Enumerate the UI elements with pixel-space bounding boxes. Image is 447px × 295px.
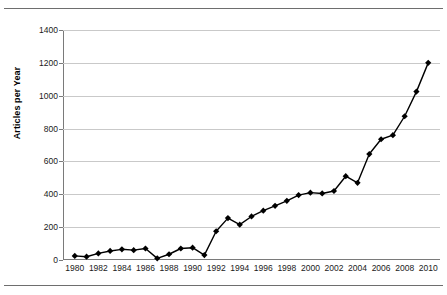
series-line (75, 63, 428, 258)
data-point-marker (307, 190, 313, 196)
data-point-marker (425, 60, 431, 66)
x-tick-label: 1988 (160, 263, 179, 273)
chart-figure: THE SOCIAL SCIENCES CITATION INDEX Artic… (0, 0, 447, 295)
x-tick-label: 1998 (277, 263, 296, 273)
y-tick-label: 600 (44, 156, 58, 166)
data-point-marker (319, 190, 325, 196)
data-point-marker (272, 203, 278, 209)
x-tick-label: 2002 (325, 263, 344, 273)
x-tick-label: 1986 (136, 263, 155, 273)
x-tick-label: 2000 (301, 263, 320, 273)
title-divider (4, 8, 443, 9)
y-tick-label: 1400 (39, 25, 58, 35)
x-tick-label: 2006 (372, 263, 391, 273)
data-point-marker (166, 251, 172, 257)
x-tick-label: 1992 (207, 263, 226, 273)
data-point-marker (178, 245, 184, 251)
data-point-marker (107, 248, 113, 254)
x-tick-label: 2010 (419, 263, 438, 273)
data-point-marker (284, 198, 290, 204)
data-point-marker (354, 180, 360, 186)
y-axis-title: Articles per Year (12, 53, 22, 153)
x-tick-label: 1980 (65, 263, 84, 273)
data-point-marker (131, 247, 137, 253)
data-point-marker (260, 208, 266, 214)
x-tick-label: 2008 (395, 263, 414, 273)
chart-title-strip: THE SOCIAL SCIENCES CITATION INDEX (0, 0, 447, 7)
plot-area: 0200400600800100012001400 19801982198419… (63, 30, 440, 260)
y-tick-label: 800 (44, 124, 58, 134)
x-tick-label: 2004 (348, 263, 367, 273)
data-point-marker (119, 246, 125, 252)
x-tick-label: 1994 (230, 263, 249, 273)
footer-divider (4, 285, 443, 286)
data-point-marker (72, 253, 78, 259)
y-tick-label: 1200 (39, 58, 58, 68)
data-point-marker (413, 89, 419, 95)
chart-title: THE SOCIAL SCIENCES CITATION INDEX (0, 0, 447, 2)
data-point-marker (296, 192, 302, 198)
data-point-marker (83, 254, 89, 260)
y-tick-label: 400 (44, 189, 58, 199)
data-point-marker (95, 250, 101, 256)
y-tick-mark (59, 260, 63, 261)
x-tick-label: 1984 (112, 263, 131, 273)
x-tick-label: 1996 (254, 263, 273, 273)
y-tick-label: 200 (44, 222, 58, 232)
y-tick-label: 1000 (39, 91, 58, 101)
y-tick-label: 0 (53, 255, 58, 265)
data-series (63, 30, 440, 260)
x-tick-label: 1982 (89, 263, 108, 273)
x-tick-label: 1990 (183, 263, 202, 273)
